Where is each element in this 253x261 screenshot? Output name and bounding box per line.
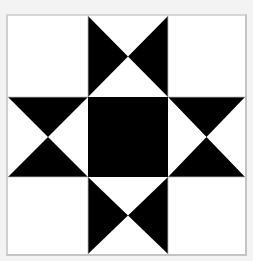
cell-center xyxy=(88,97,168,177)
quilt-block-frame xyxy=(6,14,247,256)
ohio-star-quilt-block xyxy=(8,16,245,254)
